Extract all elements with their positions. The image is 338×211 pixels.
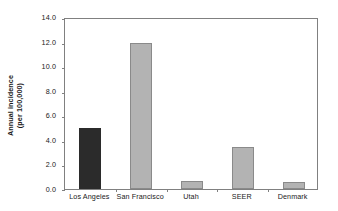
bars-layer [65,19,317,189]
y-axis-tick-label: 14.0 [26,14,56,22]
bar [130,43,152,189]
y-axis-tick-mark [62,190,65,191]
y-axis-tick-mark [62,142,65,143]
y-axis-tick-label: 0.0 [26,186,56,194]
x-axis-tick-labels: Los AngelesSan FranciscoUtahSEERDenmark [64,192,318,206]
y-axis-tick-label: 2.0 [26,161,56,169]
y-axis-tick-mark [62,117,65,118]
y-axis-tick-mark [62,19,65,20]
y-axis-title-line-2: (per 100,000) [15,75,25,136]
bar [181,181,203,189]
y-axis-tick-label: 12.0 [26,39,56,47]
y-axis-tick-mark [62,93,65,94]
y-axis-tick-mark [62,44,65,45]
bar [283,182,305,189]
bar [79,128,101,189]
bar [232,147,254,189]
y-axis-tick-label: 10.0 [26,63,56,71]
y-axis-tick-label: 8.0 [26,88,56,96]
y-axis-tick-mark [62,68,65,69]
y-axis-tick-label: 6.0 [26,112,56,120]
x-axis-tick-label: Denmark [267,192,318,202]
y-axis-tick-mark [62,166,65,167]
x-axis-tick-label: San Francisco [115,192,166,202]
x-axis-tick-label: Utah [166,192,217,202]
y-axis-tick-label: 4.0 [26,137,56,145]
x-axis-tick-label: Los Angeles [64,192,115,202]
bar-chart-figure: Annual incidence (per 100,000) 0.02.04.0… [0,0,338,211]
y-axis-title-line-1: Annual incidence [6,75,16,136]
y-axis-tick-labels: 0.02.04.06.08.010.012.014.0 [26,14,56,194]
plot-area [64,18,318,190]
x-axis-tick-label: SEER [216,192,267,202]
